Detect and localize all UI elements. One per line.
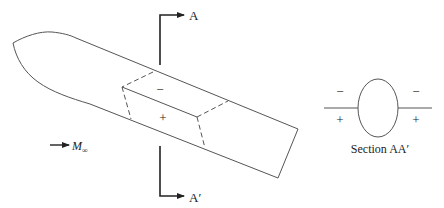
nose-top-curve [13, 32, 76, 43]
body-bottom-edge [90, 104, 278, 178]
slender-body-diagram: − + A A′ M∞ − + − + Section AA′ [0, 0, 444, 208]
panel-upper-sign: − [156, 82, 163, 97]
nose-bottom-curve [13, 43, 90, 104]
freestream-mach-label: M∞ [71, 139, 88, 155]
section-upper-left-sign: − [336, 84, 343, 99]
section-upper-right-sign: − [412, 84, 419, 99]
section-caption: Section AA′ [351, 142, 410, 156]
section-lower-right-sign: + [412, 112, 419, 127]
section-label-a: A [189, 8, 199, 23]
body-base-edge [278, 129, 298, 178]
body-outline [13, 32, 298, 178]
section-lower-left-sign: + [336, 112, 343, 127]
section-arrow-a [160, 15, 184, 65]
section-arrow-a-prime [160, 146, 184, 196]
panel-lower-sign: + [159, 110, 166, 125]
section-label-a-prime: A′ [189, 190, 201, 205]
body-top-edge [76, 38, 298, 129]
section-ellipse [358, 79, 398, 137]
dashed-panel [122, 72, 228, 148]
